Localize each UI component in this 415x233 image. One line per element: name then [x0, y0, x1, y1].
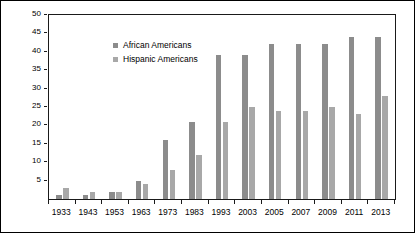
x-tick-mark [154, 200, 155, 204]
x-tick-mark [288, 200, 289, 204]
bar [276, 111, 282, 199]
x-tick-mark [48, 200, 49, 204]
bar [382, 96, 388, 199]
bar [136, 181, 142, 199]
bar [56, 195, 62, 199]
x-tick-mark [394, 200, 395, 204]
y-tick-mark [44, 32, 47, 33]
legend-swatch-icon [113, 57, 118, 62]
y-tick-mark [44, 180, 47, 181]
bar [196, 155, 202, 199]
chart-legend: African Americans Hispanic Americans [113, 40, 198, 68]
y-tick-mark [44, 14, 47, 15]
x-tick-mark [101, 200, 102, 204]
y-tick-label: 15 [23, 139, 41, 147]
y-tick-label: 45 [23, 28, 41, 36]
legend-label: Hispanic Americans [123, 54, 198, 64]
bar [242, 55, 248, 199]
y-tick-label: 20 [23, 120, 41, 128]
bar [90, 192, 96, 199]
x-tick-mark [75, 200, 76, 204]
bar [223, 122, 229, 199]
bar [83, 195, 89, 199]
legend-swatch-icon [113, 43, 118, 48]
y-tick-label: 10 [23, 157, 41, 165]
y-tick-mark [44, 143, 47, 144]
y-tick-label: 50 [23, 10, 41, 18]
bar [116, 192, 122, 199]
bar [296, 44, 302, 199]
x-tick-mark [341, 200, 342, 204]
bar [109, 192, 115, 199]
y-tick-mark [44, 51, 47, 52]
y-tick-label: 40 [23, 47, 41, 55]
y-tick-mark [44, 106, 47, 107]
bar [375, 37, 381, 199]
bar [143, 184, 149, 199]
bar [356, 114, 362, 199]
y-tick-mark [44, 88, 47, 89]
legend-item-african-americans: African Americans [113, 40, 198, 50]
x-tick-mark [181, 200, 182, 204]
bar [322, 44, 328, 199]
bars-layer [49, 15, 395, 199]
y-tick-label: 35 [23, 65, 41, 73]
bar [249, 107, 255, 199]
plot-area: African Americans Hispanic Americans [48, 14, 396, 200]
bar [329, 107, 335, 199]
bar [189, 122, 195, 199]
bar [349, 37, 355, 199]
y-tick-label: 30 [23, 84, 41, 92]
y-tick-mark [44, 69, 47, 70]
bar [170, 170, 176, 199]
x-tick-mark [128, 200, 129, 204]
x-tick-mark [367, 200, 368, 204]
y-tick-mark [44, 161, 47, 162]
y-tick-label: 25 [23, 102, 41, 110]
bar [303, 111, 309, 199]
x-tick-label: 2013 [364, 207, 398, 217]
legend-item-hispanic-americans: Hispanic Americans [113, 54, 198, 64]
x-tick-mark [314, 200, 315, 204]
chart-figure: Number of members 5101520253035404550 Af… [0, 0, 415, 233]
y-tick-label: 5 [23, 176, 41, 184]
legend-label: African Americans [123, 40, 192, 50]
bar [216, 55, 222, 199]
bar [269, 44, 275, 199]
x-tick-mark [208, 200, 209, 204]
x-tick-mark [261, 200, 262, 204]
x-tick-mark [234, 200, 235, 204]
bar [63, 188, 69, 199]
bar [163, 140, 169, 199]
y-tick-mark [44, 124, 47, 125]
